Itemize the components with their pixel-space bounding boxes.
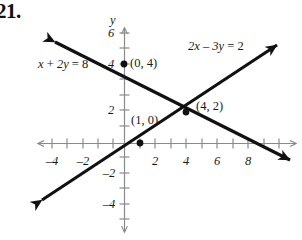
point-1-0 <box>137 140 144 147</box>
eq2-rhs: 2 <box>237 39 243 53</box>
point-label-4-2: (4, 2) <box>196 100 223 113</box>
y-axis-label: y <box>110 14 116 27</box>
equation-label-2x-minus-3y: 2x – 3y = 2 <box>188 40 244 53</box>
eq1-lhs-b: 2y <box>57 57 69 71</box>
y-tick-label-4: 4 <box>104 58 118 71</box>
eq1-equals: = <box>69 57 82 71</box>
point-label-0-4: (0, 4) <box>130 57 157 70</box>
y-tick-label-2: 2 <box>104 104 118 117</box>
x-tick-label--2: –2 <box>73 155 93 168</box>
eq2-lhs-b: 3y <box>212 39 224 53</box>
x-tick-label-4: 4 <box>179 155 193 168</box>
x-tick-label-2: 2 <box>148 155 162 168</box>
eq2-equals: = <box>224 39 237 53</box>
y-tick-label--4: –4 <box>99 198 119 211</box>
point-0-4 <box>121 61 128 68</box>
y-tick-label-6: 6 <box>104 27 118 40</box>
x-tick-label-8: 8 <box>241 155 255 168</box>
y-axis <box>120 28 130 232</box>
point-4-2 <box>183 109 190 116</box>
eq2-op: – <box>200 39 213 53</box>
point-label-1-0: (1, 0) <box>131 114 158 127</box>
y-tick-label--2: –2 <box>99 167 119 180</box>
eq1-op: + <box>44 57 57 71</box>
equation-label-x-plus-2y: x + 2y = 8 <box>38 58 88 71</box>
x-tick-label--4: –4 <box>42 155 62 168</box>
math-graph-figure: 21. <box>0 0 302 240</box>
eq1-rhs: 8 <box>82 57 88 71</box>
eq2-lhs-a: 2x <box>188 39 200 53</box>
x-tick-label-6: 6 <box>210 155 224 168</box>
